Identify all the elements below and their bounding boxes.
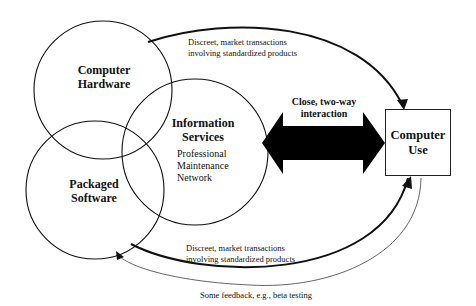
hardware-label: Computer Hardware: [68, 64, 140, 92]
hardware-label-line1: Computer: [68, 64, 140, 78]
info-services-sub-network: Network: [177, 172, 229, 184]
bottom-arc-label-line1: Discreet, market transactions: [186, 243, 295, 254]
top-arc-label: Discreet, market transactions involving …: [188, 37, 297, 58]
bottom-arc-label-line2: involving standardized products: [186, 254, 295, 265]
hardware-label-line2: Hardware: [68, 78, 140, 92]
top-arc-label-line1: Discreet, market transactions: [188, 37, 297, 48]
top-arc-label-line2: involving standardized products: [188, 48, 297, 59]
computer-use-box: Computer Use: [385, 109, 451, 176]
computer-use-line2: Use: [391, 143, 446, 157]
two-way-label: Close, two-way interaction: [282, 96, 366, 119]
software-label-line1: Packaged: [62, 178, 126, 192]
software-label: Packaged Software: [62, 178, 126, 206]
feedback-label: Some feedback, e.g., beta testing: [200, 290, 312, 301]
two-way-label-line1: Close, two-way: [282, 96, 366, 108]
info-services-label: Information Services: [166, 117, 240, 145]
two-way-label-line2: interaction: [282, 108, 366, 120]
info-services-sub-professional: Professional: [177, 148, 229, 160]
computer-use-label: Computer Use: [391, 128, 446, 157]
info-services-label-line1: Information: [166, 117, 240, 131]
info-services-sub-maintenance: Maintenance: [177, 160, 229, 172]
bottom-arc-label: Discreet, market transactions involving …: [186, 243, 295, 264]
info-services-label-line2: Services: [166, 131, 240, 145]
software-label-line2: Software: [62, 192, 126, 206]
computer-use-line1: Computer: [391, 128, 446, 142]
two-way-arrow-icon: [262, 112, 385, 174]
info-services-sublist: Professional Maintenance Network: [177, 148, 229, 184]
